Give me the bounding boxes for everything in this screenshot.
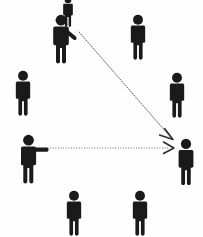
figure-mid-left (16, 71, 30, 116)
figure-top-right (131, 15, 145, 60)
pictogram-scene: Crowd of pedestrian figures with two poi… (0, 0, 203, 237)
scene-canvas (0, 0, 203, 237)
figure-bottom-left (67, 191, 81, 236)
arrowhead-diagonal (160, 129, 174, 140)
line-diagonal (79, 32, 173, 140)
figure-pointer-top (53, 15, 76, 64)
line-horizontal (45, 142, 174, 154)
figure-bottom-right (133, 191, 147, 236)
figure-mid-right (170, 73, 184, 118)
figure-pointer-left (21, 135, 48, 184)
figure-target (179, 139, 194, 185)
figures-group (16, 0, 194, 236)
